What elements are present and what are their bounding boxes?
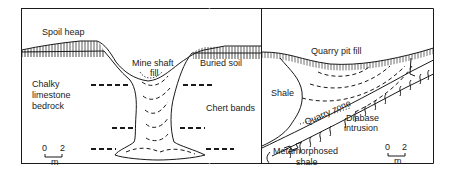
label-bedrock-2: limestone [32, 90, 71, 100]
label-diabase-1: Diabase [346, 113, 379, 123]
geologic-cross-section-figure: Spoil heap Mine shaft fill Buried soil C… [0, 0, 455, 172]
pit-fill-layers [302, 66, 412, 112]
label-mine-shaft-fill-2: fill [150, 68, 159, 78]
shale-boundary [262, 58, 302, 146]
metamorphosed-arrow [267, 152, 270, 164]
label-shale: Shale [271, 88, 294, 98]
scale-right-unit: m [394, 156, 402, 166]
scale-left-start: 0 [42, 143, 47, 153]
right-border [262, 9, 434, 164]
label-buried-soil: Buried soil [200, 58, 242, 68]
scale-left-end: 2 [60, 143, 65, 153]
label-bedrock-1: Chalky [32, 79, 60, 89]
label-metamorphosed-1: Metamorphosed [273, 146, 338, 156]
label-metamorphosed-2: shale [296, 157, 318, 167]
label-quarry-pit-fill: Quarry pit fill [311, 46, 362, 56]
label-mine-shaft-fill-1: Mine shaft [132, 58, 174, 68]
scale-right-end: 2 [402, 142, 407, 152]
scale-left-unit: m [51, 157, 59, 167]
label-chert-bands: Chert bands [206, 103, 255, 113]
label-diabase-2: intrusion [344, 123, 378, 133]
label-spoil-heap: Spoil heap [42, 27, 85, 37]
label-bedrock-3: bedrock [32, 101, 64, 111]
scale-right-start: 0 [385, 142, 390, 152]
